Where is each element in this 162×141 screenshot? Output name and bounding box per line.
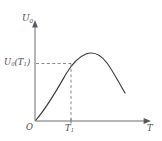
y-axis-group xyxy=(32,20,38,121)
x-tick-label-subscript: 1 xyxy=(71,127,74,133)
x-axis-group xyxy=(35,118,151,124)
y-value-label-arg-open: (T xyxy=(15,57,24,67)
y-axis-label-subscript: 0 xyxy=(30,18,34,24)
y-value-label-arg-close: ) xyxy=(27,57,30,67)
origin-label: O xyxy=(26,123,33,132)
y-value-label-subscript: 0 xyxy=(11,61,14,67)
x-axis-label: T xyxy=(147,124,153,133)
figure-container: U0 U0(T1) O T1 T xyxy=(0,0,162,141)
y-value-label-arg-subscript: 1 xyxy=(24,61,27,67)
y-value-label: U0(T1) xyxy=(4,58,30,67)
y-axis-label: U0 xyxy=(22,14,33,23)
y-axis-label-main: U xyxy=(22,13,30,23)
x-tick-label-main: T xyxy=(65,123,71,133)
x-tick-label-t1: T1 xyxy=(65,124,74,133)
